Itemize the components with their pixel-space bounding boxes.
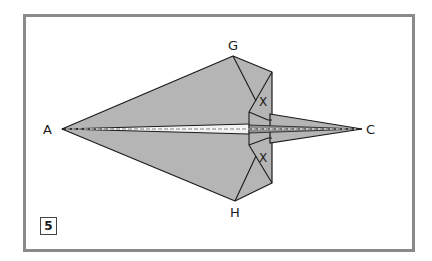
point-label-c: C (366, 122, 375, 137)
mark-x-lower: X (259, 151, 267, 165)
mark-x-upper: X (259, 95, 267, 109)
point-label-g: G (228, 38, 238, 53)
point-label-a: A (43, 122, 52, 137)
step-number-badge: 5 (40, 217, 57, 235)
origami-diagram: A C G H X X (0, 0, 432, 261)
point-label-h: H (230, 205, 240, 220)
